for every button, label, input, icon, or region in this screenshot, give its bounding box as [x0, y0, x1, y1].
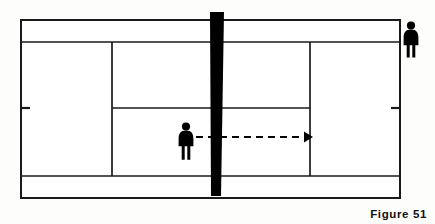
figure-caption-number: 51 [413, 208, 427, 220]
player-head-icon [407, 21, 415, 29]
player-body-icon [404, 30, 419, 58]
player-head-icon [182, 122, 190, 130]
figure-caption: Figure51 [370, 208, 427, 220]
figure-caption-label: Figure [370, 208, 409, 220]
tennis-court-diagram [0, 0, 435, 224]
figure-container: Figure51 [0, 0, 435, 224]
player-far-right [404, 21, 419, 57]
